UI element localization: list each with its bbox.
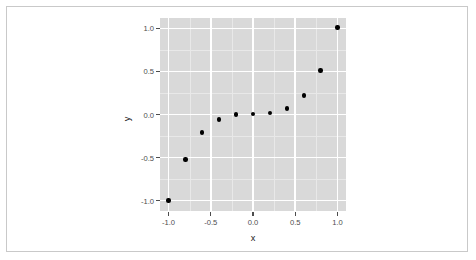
data-point <box>251 112 255 116</box>
y-axis-tick-mark <box>156 28 160 29</box>
data-point <box>335 25 339 29</box>
data-point <box>200 130 204 134</box>
y-axis-title: y <box>122 117 132 122</box>
y-axis-tick-mark <box>156 71 160 72</box>
data-point <box>318 68 322 72</box>
y-axis-tick-label: -0.5 <box>122 153 154 162</box>
x-axis-tick-mark <box>210 212 211 216</box>
x-axis-tick-label: 0.5 <box>290 218 301 227</box>
figure-frame: -1.0-0.50.00.51.0 -1.0-0.50.00.51.0 x y <box>6 6 468 252</box>
x-axis-tick-mark <box>168 212 169 216</box>
data-point <box>285 106 289 110</box>
x-axis-tick-label: -0.5 <box>204 218 217 227</box>
y-axis-tick-mark <box>156 200 160 201</box>
data-point <box>183 157 187 161</box>
y-axis-tick-label: 1.0 <box>122 24 154 33</box>
x-axis-tick-label: -1.0 <box>162 218 175 227</box>
plot-panel <box>160 18 346 211</box>
data-point <box>302 93 306 97</box>
y-axis-tick-label: 0.5 <box>122 67 154 76</box>
x-axis-tick-label: 0.0 <box>248 218 259 227</box>
data-point <box>234 112 238 116</box>
scatter-plot: -1.0-0.50.00.51.0 -1.0-0.50.00.51.0 x y <box>7 7 469 253</box>
data-point <box>217 117 221 121</box>
x-axis-tick-mark <box>252 212 253 216</box>
gridline-major-vertical <box>210 18 212 211</box>
y-axis-tick-mark <box>156 157 160 158</box>
x-axis-tick-label: 1.0 <box>332 218 343 227</box>
gridline-major-vertical <box>294 18 296 211</box>
y-axis-tick-label: -1.0 <box>122 196 154 205</box>
x-axis-tick-mark <box>295 212 296 216</box>
gridline-major-vertical <box>168 18 170 211</box>
y-axis-tick-mark <box>156 114 160 115</box>
x-axis-title: x <box>160 233 346 243</box>
gridline-major-vertical <box>337 18 339 211</box>
data-point <box>166 198 170 202</box>
x-axis-tick-mark <box>337 212 338 216</box>
